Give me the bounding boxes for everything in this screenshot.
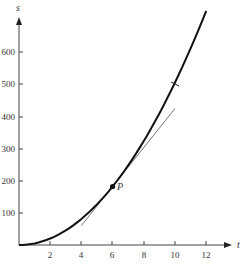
x-tick-label: 12 bbox=[202, 250, 211, 260]
curve-line bbox=[19, 11, 206, 245]
y-tick-label: 300 bbox=[2, 144, 16, 154]
chart: t s 100 200 300 400 500 600 2 4 6 8 10 1… bbox=[0, 0, 246, 265]
y-tick-label: 400 bbox=[2, 112, 16, 122]
x-tick-label: 10 bbox=[171, 250, 181, 260]
y-tick-label: 600 bbox=[2, 47, 16, 57]
point-p bbox=[110, 184, 115, 189]
x-tick-label: 2 bbox=[48, 250, 53, 260]
y-axis-label: s bbox=[16, 2, 20, 13]
x-tick-label: 8 bbox=[142, 250, 147, 260]
y-ticks: 100 200 300 400 500 600 bbox=[2, 47, 24, 218]
point-p-label: P bbox=[116, 181, 123, 192]
y-tick-label: 100 bbox=[2, 208, 16, 218]
x-ticks: 2 4 6 8 10 12 bbox=[48, 241, 211, 260]
y-axis-arrow-icon bbox=[16, 17, 22, 25]
x-axis-label: t bbox=[237, 239, 240, 250]
y-tick-label: 500 bbox=[2, 79, 16, 89]
x-tick-label: 6 bbox=[110, 250, 115, 260]
x-tick-label: 4 bbox=[79, 250, 84, 260]
x-axis-arrow-icon bbox=[224, 242, 232, 248]
y-tick-label: 200 bbox=[2, 176, 16, 186]
